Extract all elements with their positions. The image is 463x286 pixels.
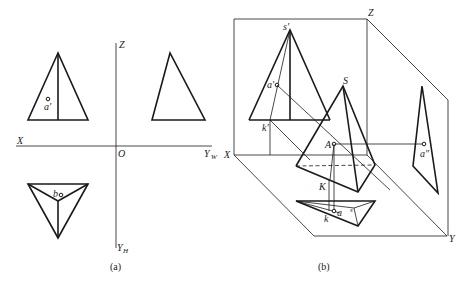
top-view: [28, 184, 88, 238]
figure-b: Z X Y s' a' k' S A K k a s a" (b): [223, 7, 456, 273]
axis-yh-subscript: H: [122, 247, 129, 255]
axis-x-label: X: [16, 135, 24, 146]
front-projection: [249, 30, 330, 155]
label-S: S: [343, 75, 348, 86]
side-view: [152, 53, 205, 120]
label-a-prime: a': [44, 101, 52, 112]
label-a-prime-b: a': [267, 79, 275, 90]
projection-diagram: Z X O Y W Y H a' b (a): [0, 0, 463, 286]
label-A: A: [324, 139, 332, 150]
front-view: [28, 53, 88, 120]
caption-b: (b): [318, 261, 330, 273]
axis-z-label-b: Z: [368, 7, 374, 18]
side-projection: [413, 86, 438, 193]
figure-a: Z X O Y W Y H a' b (a): [16, 39, 218, 273]
axis-yw-label: Y: [204, 148, 211, 159]
label-K: K: [318, 181, 327, 192]
h-plane-left-edge: [234, 155, 314, 236]
point-a-double-prime: [422, 142, 426, 146]
label-a: a: [337, 207, 342, 218]
top-projection: [296, 201, 375, 226]
label-b: b: [53, 188, 58, 199]
label-k-prime: k': [262, 122, 269, 133]
projector-k: [270, 120, 310, 160]
caption-a: (a): [110, 261, 121, 273]
label-k: k: [324, 213, 329, 224]
axis-yw-subscript: W: [211, 153, 218, 161]
label-s-prime: s': [283, 21, 290, 32]
y-axis-line: [367, 155, 447, 236]
v-plane: [234, 19, 367, 155]
label-a-double-prime: a": [420, 148, 430, 159]
point-b: [59, 193, 63, 197]
axis-z-label: Z: [119, 39, 125, 50]
axis-x-label-b: X: [223, 149, 231, 160]
axis-y-label-b: Y: [449, 233, 456, 244]
label-s: s: [350, 206, 353, 214]
point-a-h: [332, 209, 336, 213]
w-plane-top-edge: [367, 19, 448, 100]
origin-label: O: [118, 148, 125, 159]
